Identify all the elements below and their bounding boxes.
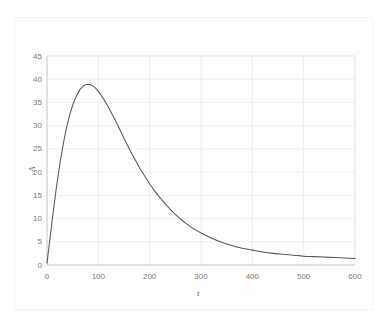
- x-tick-label: 200: [137, 272, 163, 281]
- y-tick-label: 40: [22, 75, 42, 84]
- x-tick-label: 300: [188, 272, 214, 281]
- y-tick-label: 35: [22, 98, 42, 107]
- x-tick-label: 0: [34, 272, 60, 281]
- y-tick-label: 45: [22, 52, 42, 61]
- y-tick-label: 30: [22, 121, 42, 130]
- y-tick-label: 25: [22, 144, 42, 153]
- x-tick-label: 500: [291, 272, 317, 281]
- x-tick-label: 600: [342, 272, 368, 281]
- y-tick-label: 10: [22, 214, 42, 223]
- x-tick-label: 100: [85, 272, 111, 281]
- y-tick-label: 5: [22, 237, 42, 246]
- x-tick-label: 400: [239, 272, 265, 281]
- y-tick-label: 0: [22, 261, 42, 270]
- x-axis-title: t: [197, 288, 200, 298]
- chart-figure: 454035302520151050 0100200300400500600 A…: [0, 0, 388, 325]
- y-axis-title: A: [27, 167, 37, 173]
- y-tick-label: 15: [22, 191, 42, 200]
